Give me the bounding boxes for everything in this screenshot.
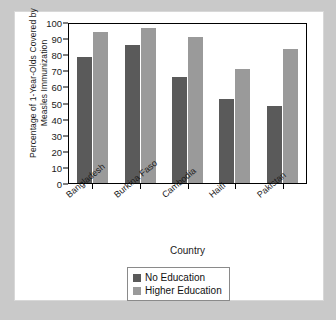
y-axis-tick-label: 60 bbox=[51, 82, 62, 93]
bar bbox=[283, 49, 298, 183]
bar-chart-figure: Percentage of 1-Year-Olds Covered by Mea… bbox=[15, 12, 323, 300]
legend-item: No Education bbox=[133, 271, 222, 284]
legend-item-label: No Education bbox=[145, 272, 205, 283]
x-axis-tick-mark bbox=[92, 184, 93, 189]
legend-item: Higher Education bbox=[133, 284, 222, 297]
y-axis-tick-label: 40 bbox=[51, 114, 62, 125]
x-axis-tick-mark bbox=[235, 184, 236, 189]
x-axis-tick-mark bbox=[140, 184, 141, 189]
x-axis-title: Country bbox=[68, 245, 307, 256]
page-background: Percentage of 1-Year-Olds Covered by Mea… bbox=[0, 0, 336, 320]
legend-item-label: Higher Education bbox=[145, 285, 222, 296]
bar bbox=[125, 45, 140, 183]
bar-group bbox=[219, 24, 250, 183]
y-axis-tick-label: 90 bbox=[51, 34, 62, 45]
y-axis-tick-label: 50 bbox=[51, 98, 62, 109]
bar bbox=[172, 77, 187, 183]
x-axis-ticks: BangladeshBurkina FasoCambodiaHaitiPakis… bbox=[68, 184, 307, 244]
plot-area bbox=[68, 23, 307, 184]
y-axis-tick-label: 100 bbox=[46, 18, 62, 29]
y-axis-tick-label: 0 bbox=[57, 179, 62, 190]
bar bbox=[77, 57, 92, 183]
legend-swatch-icon bbox=[133, 287, 141, 295]
x-axis-tick-mark bbox=[188, 184, 189, 189]
bar-group bbox=[267, 24, 298, 183]
bar bbox=[93, 32, 108, 183]
y-axis-tick-label: 80 bbox=[51, 50, 62, 61]
bar-group bbox=[77, 24, 108, 183]
bar-groups bbox=[69, 24, 306, 183]
legend-swatch-icon bbox=[133, 274, 141, 282]
bar bbox=[188, 37, 203, 184]
bar bbox=[235, 69, 250, 183]
chart-legend: No EducationHigher Education bbox=[127, 267, 230, 301]
y-axis-ticks: 0102030405060708090100 bbox=[15, 23, 68, 184]
bar-group bbox=[172, 24, 203, 183]
y-axis-tick-label: 30 bbox=[51, 130, 62, 141]
x-axis-tick-mark bbox=[283, 184, 284, 189]
figure-card: Percentage of 1-Year-Olds Covered by Mea… bbox=[14, 11, 324, 301]
y-axis-tick-label: 20 bbox=[51, 146, 62, 157]
y-axis-tick-label: 10 bbox=[51, 162, 62, 173]
bar bbox=[219, 99, 234, 183]
x-axis-tick-label: Haiti bbox=[207, 180, 227, 199]
y-axis-tick-label: 70 bbox=[51, 66, 62, 77]
